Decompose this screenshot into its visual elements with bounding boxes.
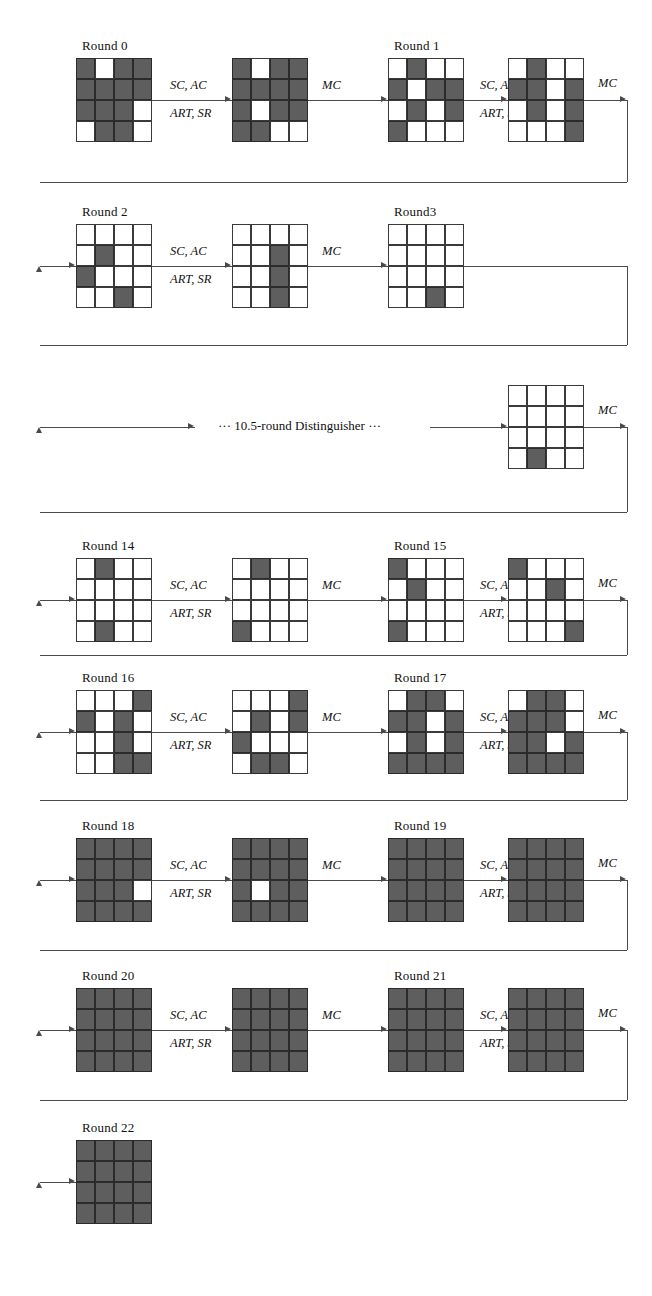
state-cell-r2c3 [289, 100, 308, 121]
state-cell-r3c0 [388, 1051, 407, 1072]
state-cell-r1c3 [565, 406, 584, 427]
state-cell-r3c3 [445, 901, 464, 922]
state-cell-r3c1 [527, 1051, 546, 1072]
state-cell-r2c3 [445, 266, 464, 287]
state-cell-r3c3 [289, 1051, 308, 1072]
state-cell-r3c1 [407, 753, 426, 774]
state-cell-r3c3 [445, 621, 464, 642]
state-cell-r2c1 [95, 1182, 114, 1203]
state-cell-r3c1 [95, 621, 114, 642]
state-cell-r0c1 [95, 988, 114, 1009]
state-cell-r1c1 [95, 245, 114, 266]
connector-line [627, 427, 628, 512]
state-cell-r0c1 [407, 558, 426, 579]
state-cell-r2c2 [114, 880, 133, 901]
connector-line [430, 427, 508, 428]
state-cell-r1c0 [232, 245, 251, 266]
state-cell-r1c1 [251, 859, 270, 880]
connector-arrow [69, 596, 75, 602]
state-cell-r0c3 [133, 838, 152, 859]
state-cell-r0c3 [565, 838, 584, 859]
state-cell-r1c3 [289, 245, 308, 266]
state-cell-r2c2 [546, 732, 565, 753]
state-cell-r2c0 [76, 266, 95, 287]
state-cell-r1c3 [133, 1009, 152, 1030]
state-cell-r1c0 [232, 1009, 251, 1030]
state-grid [388, 690, 464, 774]
state-cell-r2c3 [565, 100, 584, 121]
state-cell-r2c1 [407, 880, 426, 901]
state-cell-r3c1 [407, 121, 426, 142]
state-cell-r2c0 [388, 732, 407, 753]
state-cell-r2c0 [388, 1030, 407, 1051]
state-cell-r0c0 [76, 838, 95, 859]
state-cell-r1c0 [76, 79, 95, 100]
state-cell-r2c2 [270, 1030, 289, 1051]
state-cell-r0c2 [114, 224, 133, 245]
state-cell-r1c3 [445, 245, 464, 266]
state-cell-r0c0 [388, 58, 407, 79]
op-label-mc: MC [322, 78, 341, 93]
connector-arrow [381, 596, 387, 602]
state-cell-r3c1 [527, 901, 546, 922]
state-cell-r2c3 [445, 1030, 464, 1051]
state-cell-r3c1 [95, 1203, 114, 1224]
round-label: Round 19 [394, 818, 447, 834]
state-cell-r3c2 [546, 901, 565, 922]
state-cell-r2c2 [546, 880, 565, 901]
connector-line [40, 950, 627, 951]
op-label-art-sr: ART, SR [170, 886, 211, 901]
state-cell-r2c2 [546, 100, 565, 121]
state-cell-r0c1 [95, 838, 114, 859]
state-cell-r2c0 [76, 1030, 95, 1051]
connector-line [40, 182, 627, 183]
state-cell-r0c1 [527, 558, 546, 579]
state-cell-r0c3 [289, 690, 308, 711]
state-cell-r2c1 [527, 732, 546, 753]
state-cell-r1c0 [508, 859, 527, 880]
connector-arrow [69, 876, 75, 882]
connector-arrow [225, 596, 231, 602]
state-cell-r1c3 [445, 579, 464, 600]
state-cell-r2c1 [251, 600, 270, 621]
connector-line [152, 266, 232, 267]
state-cell-r0c2 [546, 558, 565, 579]
state-cell-r2c2 [270, 266, 289, 287]
state-cell-r0c3 [565, 385, 584, 406]
state-cell-r2c1 [251, 732, 270, 753]
state-cell-r0c0 [232, 224, 251, 245]
state-cell-r2c3 [289, 880, 308, 901]
distinguisher-label: ··· 10.5-round Distinguisher ··· [218, 418, 381, 434]
state-cell-r0c1 [251, 224, 270, 245]
state-cell-r3c3 [133, 621, 152, 642]
state-cell-r0c0 [508, 838, 527, 859]
state-cell-r3c1 [95, 753, 114, 774]
state-cell-r0c2 [270, 558, 289, 579]
state-cell-r3c3 [133, 753, 152, 774]
state-cell-r2c3 [565, 1030, 584, 1051]
state-cell-r3c0 [508, 901, 527, 922]
connector-line [308, 1030, 388, 1031]
op-label-mc: MC [598, 576, 617, 591]
state-cell-r2c2 [426, 880, 445, 901]
state-cell-r0c3 [289, 558, 308, 579]
state-cell-r2c2 [426, 266, 445, 287]
round-label: Round 20 [82, 968, 135, 984]
state-cell-r3c0 [232, 753, 251, 774]
state-grid [76, 558, 152, 642]
state-cell-r0c1 [251, 690, 270, 711]
state-cell-r3c3 [565, 753, 584, 774]
state-cell-r3c0 [508, 448, 527, 469]
connector-line [627, 100, 628, 182]
state-cell-r2c2 [546, 600, 565, 621]
connector-arrow [36, 266, 42, 272]
state-cell-r1c1 [251, 245, 270, 266]
state-cell-r1c0 [388, 1009, 407, 1030]
state-cell-r2c3 [289, 600, 308, 621]
connector-arrow [620, 728, 626, 734]
state-cell-r2c3 [133, 732, 152, 753]
state-cell-r3c2 [270, 1051, 289, 1072]
state-cell-r3c0 [388, 901, 407, 922]
state-cell-r1c0 [76, 579, 95, 600]
state-cell-r1c0 [388, 579, 407, 600]
